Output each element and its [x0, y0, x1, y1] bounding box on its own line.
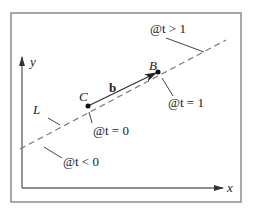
parametric-line-diagram: y x C B b L @t > 1 @t = 1 @t = 0 @t < 0	[0, 0, 253, 209]
t-eq-0-annotation: @t = 0	[93, 123, 129, 138]
point-C-label: C	[79, 89, 88, 104]
line-L-leader	[48, 118, 60, 125]
y-axis-label: y	[28, 54, 36, 69]
vector-b-label: b	[109, 80, 116, 95]
t-eq-0-leader	[89, 112, 92, 123]
t-lt-0-leader	[44, 147, 62, 158]
line-L-label: L	[32, 102, 40, 117]
point-B-label: B	[149, 58, 157, 73]
outer-frame	[11, 13, 241, 202]
t-lt-0-annotation: @t < 0	[63, 154, 99, 169]
t-eq-1-leader	[162, 78, 173, 96]
vector-b	[88, 73, 156, 106]
x-axis-label: x	[226, 180, 233, 195]
t-gt-1-annotation: @t > 1	[150, 21, 186, 36]
t-gt-1-leader	[166, 38, 204, 52]
t-eq-1-annotation: @t = 1	[168, 95, 204, 110]
point-C	[86, 104, 91, 109]
